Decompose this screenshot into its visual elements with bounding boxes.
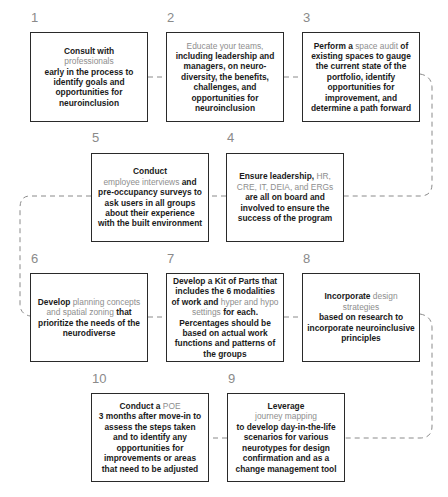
step-text-6: Develop planning concepts and spatial zo… xyxy=(35,297,143,339)
step-box-7: Develop a Kit of Parts that includes the… xyxy=(166,273,284,362)
step-5-highlight: employee interviews xyxy=(103,177,179,187)
step-10-text-b: 3 months after move-in to assess the ste… xyxy=(99,411,201,473)
step-8-text-a: Incorporate xyxy=(324,291,370,301)
step-box-2: Educate your teams, including leadership… xyxy=(166,32,284,122)
step-9-highlight: journey mapping xyxy=(255,411,317,421)
step-3-text-b: of existing spaces to gauge the current … xyxy=(311,41,411,113)
step-5-text-a: Conduct xyxy=(133,166,167,176)
step-box-1: Consult with professionals early in the … xyxy=(30,32,148,122)
step-number-7: 7 xyxy=(167,252,174,266)
step-4-text-a: Ensure leadership, xyxy=(239,171,314,181)
step-1-text-b: early in the process to identify goals a… xyxy=(45,67,134,108)
step-number-10: 10 xyxy=(92,372,106,386)
step-box-8: Incorporate design strategies based on r… xyxy=(302,273,420,362)
step-number-2: 2 xyxy=(167,11,174,25)
step-number-8: 8 xyxy=(303,252,310,266)
step-2-text-b: including leadership and managers, on ne… xyxy=(176,51,275,113)
step-1-highlight: professionals xyxy=(64,56,113,66)
step-8-text-b: based on research to incorporate neuroin… xyxy=(307,312,415,343)
step-number-5: 5 xyxy=(92,131,99,145)
step-box-4: Ensure leadership, HR, CRE, IT, DEIA, an… xyxy=(226,153,344,242)
step-text-9: Leverage journey mapping to develop day-… xyxy=(232,401,340,474)
step-3-highlight: space audit xyxy=(355,41,398,51)
step-9-text-b: to develop day-in-the-life scenarios for… xyxy=(236,422,337,474)
step-1-text-a: Consult with xyxy=(64,46,114,56)
step-text-1: Consult with professionals early in the … xyxy=(35,46,143,108)
step-text-2: Educate your teams, including leadership… xyxy=(171,41,279,114)
step-text-3: Perform a space audit of existing spaces… xyxy=(307,41,415,114)
step-text-8: Incorporate design strategies based on r… xyxy=(307,291,415,343)
step-6-text-a: Develop xyxy=(38,297,71,307)
step-number-1: 1 xyxy=(31,11,38,25)
step-box-9: Leverage journey mapping to develop day-… xyxy=(227,393,345,482)
step-9-text-a: Leverage xyxy=(268,401,305,411)
step-10-text-a: Conduct a xyxy=(120,401,161,411)
step-10-highlight: POE xyxy=(163,401,181,411)
step-text-10: Conduct a POE 3 months after move-in to … xyxy=(96,401,204,474)
step-box-3: Perform a space audit of existing spaces… xyxy=(302,32,420,122)
step-4-text-b: are all on board and involved to ensure … xyxy=(238,192,332,223)
step-number-3: 3 xyxy=(303,11,310,25)
step-3-text-a: Perform a xyxy=(314,41,353,51)
step-box-6: Develop planning concepts and spatial zo… xyxy=(30,273,148,362)
step-number-6: 6 xyxy=(31,252,38,266)
step-box-5: Conduct employee interviews and pre-occu… xyxy=(91,153,209,242)
step-7-text-b: for each. Percentages should be based on… xyxy=(175,307,276,359)
step-text-7: Develop a Kit of Parts that includes the… xyxy=(171,276,279,359)
step-text-5: Conduct employee interviews and pre-occu… xyxy=(96,166,204,228)
step-2-highlight: Educate your teams, xyxy=(187,41,264,51)
step-number-4: 4 xyxy=(227,131,234,145)
step-box-10: Conduct a POE 3 months after move-in to … xyxy=(91,393,209,482)
step-text-4: Ensure leadership, HR, CRE, IT, DEIA, an… xyxy=(231,171,339,223)
step-number-9: 9 xyxy=(228,372,235,386)
